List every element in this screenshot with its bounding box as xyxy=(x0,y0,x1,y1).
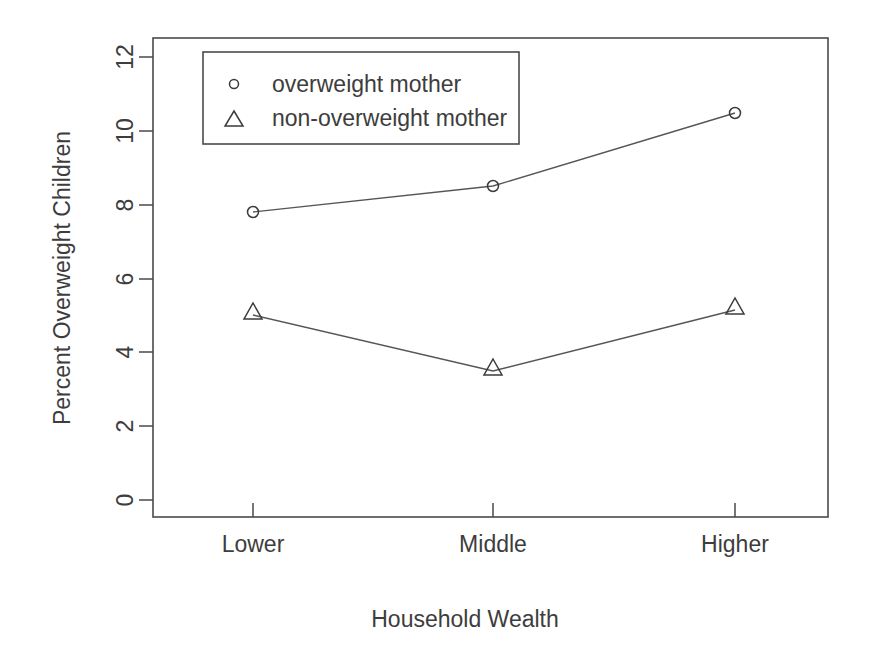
y-axis-ticks xyxy=(139,57,153,500)
x-axis-ticks xyxy=(253,503,735,517)
legend-label-non-overweight-mother: non-overweight mother xyxy=(272,105,508,131)
y-tick-label-0: 0 xyxy=(112,494,138,507)
x-tick-label-higher: Higher xyxy=(701,531,769,557)
chart-legend: overweight mother non-overweight mother xyxy=(203,52,519,144)
y-tick-label-12: 12 xyxy=(112,44,138,70)
y-axis-title: Percent Overweight Children xyxy=(49,131,75,425)
legend-label-overweight-mother: overweight mother xyxy=(272,71,462,97)
data-point-non-overweight-middle xyxy=(484,359,502,375)
x-tick-label-middle: Middle xyxy=(459,531,527,557)
y-tick-label-4: 4 xyxy=(112,345,138,358)
y-tick-label-8: 8 xyxy=(112,199,138,212)
y-tick-label-2: 2 xyxy=(112,420,138,433)
y-axis-tick-labels: 0 2 4 6 8 10 12 xyxy=(112,44,138,506)
chart-figure: 0 2 4 6 8 10 12 Percent Overweight Child… xyxy=(0,0,875,653)
y-tick-label-6: 6 xyxy=(112,273,138,286)
x-axis-tick-labels: Lower Middle Higher xyxy=(222,531,770,557)
x-tick-label-lower: Lower xyxy=(222,531,285,557)
y-tick-label-10: 10 xyxy=(112,118,138,144)
x-axis-title: Household Wealth xyxy=(371,606,559,632)
line-chart-canvas: 0 2 4 6 8 10 12 Percent Overweight Child… xyxy=(0,0,875,653)
series-non-overweight-mother xyxy=(244,298,744,375)
